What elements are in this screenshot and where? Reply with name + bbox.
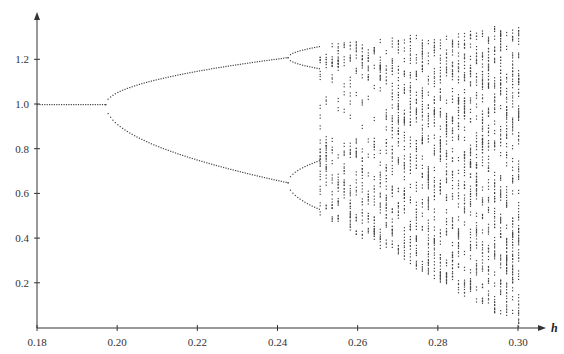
chart-canvas: h0.180.200.220.240.260.280.300.20.40.60.…: [0, 0, 564, 354]
y-tick-label: 0.4: [15, 232, 29, 244]
x-tick-label: 0.20: [108, 336, 128, 348]
data-points: [37, 26, 519, 327]
y-tick-label: 0.2: [15, 277, 29, 289]
x-axis-arrow-icon: [538, 325, 546, 331]
bifurcation-chart: h0.180.200.220.240.260.280.300.20.40.60.…: [0, 0, 564, 354]
x-tick-label: 0.18: [27, 336, 47, 348]
x-tick-label: 0.30: [508, 336, 528, 348]
y-axis-arrow-icon: [34, 12, 40, 20]
x-tick-label: 0.22: [188, 336, 207, 348]
y-tick-label: 0.8: [15, 143, 29, 155]
x-tick-label: 0.24: [268, 336, 288, 348]
y-tick-label: 0.6: [15, 187, 29, 199]
x-tick-label: 0.28: [428, 336, 448, 348]
x-tick-label: 0.26: [348, 336, 368, 348]
x-axis-label: h: [551, 321, 558, 335]
y-tick-label: 1.2: [15, 53, 29, 65]
y-tick-label: 1.0: [15, 98, 29, 110]
